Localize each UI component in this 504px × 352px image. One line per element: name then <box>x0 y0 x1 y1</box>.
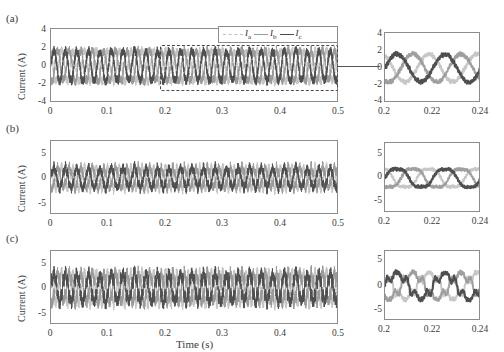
legend-item-ia: Ia <box>223 28 251 41</box>
plot-inset-b <box>384 142 480 212</box>
ytick-ins-b-m5: -5 <box>358 195 382 205</box>
panel-label-b: (b) <box>6 122 19 134</box>
ytick-ins-c-0: 0 <box>362 280 382 290</box>
xtick-c-03: 0.3 <box>210 328 234 338</box>
xtick-c-02: 0.2 <box>153 328 177 338</box>
legend-item-ib: Ib <box>254 28 277 41</box>
ytick-b-5: 5 <box>26 148 46 158</box>
xtick-b-04: 0.4 <box>268 218 292 228</box>
ytick-a-2: 2 <box>26 42 46 52</box>
xtick-ins-c-1: 0.22 <box>420 324 444 334</box>
ytick-b-m5: -5 <box>22 198 46 208</box>
ytick-ins-a-2: 2 <box>362 45 382 55</box>
xtick-b-02: 0.2 <box>153 218 177 228</box>
legend-label-ic: Ic <box>296 28 302 41</box>
axis-label-x: Time (s) <box>176 338 213 350</box>
plot-main-c <box>50 250 338 324</box>
legend-label-ia: Ia <box>245 28 251 41</box>
xtick-ins-a-1: 0.22 <box>420 106 444 116</box>
xtick-ins-c-2: 0.24 <box>468 324 492 334</box>
ytick-c-5: 5 <box>26 258 46 268</box>
ytick-ins-a-m4: -4 <box>358 95 382 105</box>
ytick-a-0: 0 <box>26 60 46 70</box>
ytick-ins-b-0: 0 <box>362 171 382 181</box>
legend-swatch-ia <box>223 34 243 35</box>
ytick-b-0: 0 <box>26 172 46 182</box>
waveform-inset-a <box>385 33 480 102</box>
panel-label-c: (c) <box>6 232 18 244</box>
plot-inset-a <box>384 32 480 102</box>
ytick-ins-c-5: 5 <box>362 254 382 264</box>
xtick-a-04: 0.4 <box>268 106 292 116</box>
ytick-ins-a-m2: -2 <box>358 79 382 89</box>
xtick-c-01: 0.1 <box>95 328 119 338</box>
plot-inset-c <box>384 250 480 320</box>
xtick-c-04: 0.4 <box>268 328 292 338</box>
legend-item-ic: Ic <box>280 28 302 41</box>
xtick-a-02: 0.2 <box>153 106 177 116</box>
figure-root: (a) Current (A) 4 2 0 -2 -4 0 0.1 0.2 0.… <box>0 0 504 352</box>
waveform-main-b <box>51 141 338 214</box>
ytick-ins-a-0: 0 <box>362 62 382 72</box>
plot-main-b <box>50 140 338 214</box>
ytick-ins-b-5: 5 <box>362 148 382 158</box>
panel-label-a: (a) <box>6 12 18 24</box>
ytick-ins-a-4: 4 <box>362 28 382 38</box>
xtick-a-05: 0.5 <box>326 106 350 116</box>
waveform-inset-b <box>385 143 480 212</box>
xtick-ins-b-2: 0.24 <box>468 216 492 226</box>
xtick-ins-a-0: 0.2 <box>372 106 396 116</box>
ytick-a-4: 4 <box>26 24 46 34</box>
xtick-c-05: 0.5 <box>326 328 350 338</box>
xtick-ins-a-2: 0.24 <box>468 106 492 116</box>
xtick-b-05: 0.5 <box>326 218 350 228</box>
xtick-ins-c-0: 0.2 <box>372 324 396 334</box>
ytick-ins-c-m5: -5 <box>358 304 382 314</box>
ytick-c-m5: -5 <box>22 308 46 318</box>
ytick-c-0: 0 <box>26 282 46 292</box>
xtick-a-03: 0.3 <box>210 106 234 116</box>
legend-swatch-ic <box>280 34 294 35</box>
xtick-b-0: 0 <box>38 218 62 228</box>
xtick-b-03: 0.3 <box>210 218 234 228</box>
xtick-c-0: 0 <box>38 328 62 338</box>
legend: Ia Ib Ic <box>218 26 338 43</box>
waveform-main-c <box>51 251 338 324</box>
xtick-b-01: 0.1 <box>95 218 119 228</box>
zoom-connector-a <box>338 66 380 67</box>
xtick-a-01: 0.1 <box>95 106 119 116</box>
xtick-a-0: 0 <box>38 106 62 116</box>
zoom-region-box-a <box>160 45 338 91</box>
ytick-a-m2: -2 <box>22 78 46 88</box>
ytick-a-m4: -4 <box>22 96 46 106</box>
legend-swatch-ib <box>254 34 268 35</box>
xtick-ins-b-1: 0.22 <box>420 216 444 226</box>
xtick-ins-b-0: 0.2 <box>372 216 396 226</box>
legend-label-ib: Ib <box>270 28 277 41</box>
waveform-inset-c <box>385 251 480 320</box>
